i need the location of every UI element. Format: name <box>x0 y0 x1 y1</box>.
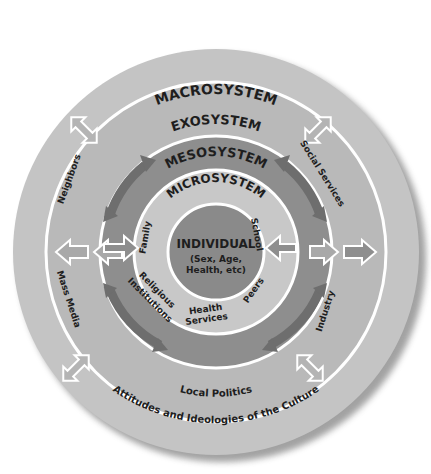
ecological-systems-diagram: MACROSYSTEM EXOSYSTEM MESOSYSTEM MICROSY… <box>0 0 431 474</box>
individual-title: INDIVIDUAL <box>177 237 256 251</box>
individual-line-2: Health, etc) <box>186 265 246 275</box>
individual-line-1: (Sex, Age, <box>190 254 242 264</box>
